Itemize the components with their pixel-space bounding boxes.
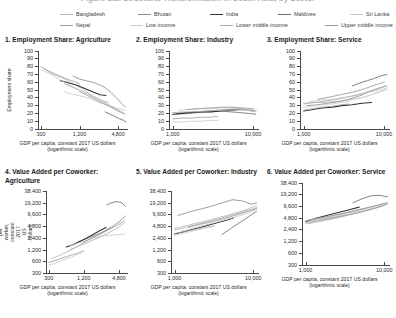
x-axis-ticks: 1,00010,000 <box>133 273 264 283</box>
legend-label: Bangladesh <box>76 11 105 17</box>
x-tick-label: 1,000 <box>168 275 182 281</box>
legend-item-low-income[interactable]: Low income <box>130 22 175 28</box>
plot-area: 3006001,2002,4004,8009,60019,20038,4001,… <box>133 187 264 299</box>
series-line-maldives <box>352 74 387 86</box>
panel-title: 5. Value Added per Coworker: Industry <box>136 168 264 185</box>
x-tick-label: 10,000 <box>376 267 393 273</box>
x-tick-label: 300 <box>36 131 45 137</box>
series-line-bhutan <box>178 200 257 216</box>
panel-value-added-service: 6. Value Added per Coworker: Service 300… <box>264 168 395 318</box>
legend-swatch-icon <box>220 25 233 26</box>
x-tick-mark <box>49 270 50 273</box>
x-axis-ticks: 1,00010,000 <box>133 129 264 139</box>
x-tick-mark <box>80 126 81 129</box>
x-axis-label: GDP per capita, constant 2017 US dollars… <box>133 140 264 152</box>
legend-label: Nepal <box>76 22 90 28</box>
x-tick-mark <box>84 270 85 273</box>
x-tick-label: 4,800 <box>112 275 126 281</box>
x-axis-label-sub: (logarithmic scale) <box>133 146 264 152</box>
x-axis-label-text: GDP per capita, constant 2017 US dollars <box>133 140 264 146</box>
legend-label: Low income <box>146 22 175 28</box>
x-axis-label-text: GDP per capita, constant 2017 US dollars <box>2 140 133 146</box>
series-line-bhutan <box>78 216 126 242</box>
series-line-sri-lanka <box>65 91 126 110</box>
legend-swatch-icon <box>130 25 143 26</box>
panel-title: 2. Employment Share: Industry <box>136 36 264 45</box>
x-axis-label-sub: (logarithmic scale) <box>2 290 133 296</box>
x-axis-label: GDP per capita, constant 2017 US dollars… <box>133 284 264 296</box>
plot-area: Value added per worker, constant 2017 US… <box>2 187 133 299</box>
panel-title: 1. Employment Share: Agriculture <box>5 36 133 45</box>
x-tick-mark <box>304 126 305 129</box>
x-tick-mark <box>253 270 254 273</box>
x-axis-label-sub: (logarithmic scale) <box>264 146 395 152</box>
plot-area: Employment share010203040506070809010030… <box>2 47 133 151</box>
legend-label: Lower middle income <box>236 22 288 28</box>
series-line-nepal <box>173 116 218 118</box>
x-tick-label: 10,000 <box>245 131 262 137</box>
x-tick-mark <box>173 126 174 129</box>
legend-row-2: NepalLow incomeLower middle incomeUpper … <box>60 22 396 33</box>
series-line-maldives <box>222 211 257 234</box>
x-axis-ticks: 3001,2004,800 <box>2 273 133 283</box>
legend-item-bangladesh[interactable]: Bangladesh <box>60 11 105 17</box>
legend-swatch-icon <box>60 25 73 26</box>
chart-legend: BangladeshBhutanIndiaMaldivesSri Lanka N… <box>60 11 396 35</box>
x-tick-mark <box>384 262 385 265</box>
legend-item-india[interactable]: India <box>210 11 238 17</box>
x-tick-mark <box>41 126 42 129</box>
x-axis-label: GDP per capita, constant 2017 US dollars… <box>2 284 133 296</box>
legend-row-1: BangladeshBhutanIndiaMaldivesSri Lanka <box>60 11 396 22</box>
x-axis-label-sub: (logarithmic scale) <box>264 282 395 288</box>
legend-label: India <box>226 11 238 17</box>
series-line-nepal <box>49 251 84 262</box>
x-tick-label: 1,000 <box>166 131 180 137</box>
x-tick-label: 1,000 <box>297 131 311 137</box>
legend-item-sri-lanka[interactable]: Sri Lanka <box>350 11 389 17</box>
plot-area: 01020304050607080901001,00010,000GDP per… <box>264 47 395 151</box>
series-line-upper-middle-income <box>319 202 387 217</box>
x-axis-ticks: 3001,2004,800 <box>2 129 133 139</box>
x-axis-ticks: 1,00010,000 <box>264 265 395 275</box>
x-axis-label: GDP per capita, constant 2017 US dollars… <box>264 276 395 288</box>
figure-structural-transformation: Figure 1.1. Structural Transformation in… <box>0 0 396 318</box>
x-tick-mark <box>119 270 120 273</box>
plot-area: 3006001,2002,4004,8009,60019,20038,4001,… <box>264 179 395 291</box>
series-line-bangladesh <box>175 205 257 228</box>
x-tick-mark <box>175 270 176 273</box>
legend-item-upper-middle-income[interactable]: Upper middle income <box>325 22 393 28</box>
x-axis-label-sub: (logarithmic scale) <box>2 146 133 152</box>
series-line-low-income <box>49 253 82 265</box>
x-axis-label: GDP per capita, constant 2017 US dollars… <box>2 140 133 152</box>
series-line-maldives <box>221 111 256 114</box>
panel-title: 6. Value Added per Coworker: Service <box>267 168 395 177</box>
series-line-india <box>304 102 372 111</box>
panel-employment-industry: 2. Employment Share: Industry 0102030405… <box>133 36 264 168</box>
legend-swatch-icon <box>60 14 73 15</box>
legend-label: Sri Lanka <box>366 11 389 17</box>
series-line-lower-middle-income <box>65 83 124 112</box>
panel-employment-agriculture: 1. Employment Share: Agriculture Employm… <box>2 36 133 168</box>
series-line-lower-middle-income <box>304 85 387 104</box>
x-axis-label: GDP per capita, constant 2017 US dollars… <box>264 140 395 152</box>
panel-title: 4. Value Added per Coworker: Agriculture <box>5 168 133 185</box>
x-tick-mark <box>384 126 385 129</box>
legend-item-maldives[interactable]: Maldives <box>278 11 316 17</box>
x-axis-ticks: 1,00010,000 <box>264 129 395 139</box>
x-tick-mark <box>253 126 254 129</box>
legend-item-bhutan[interactable]: Bhutan <box>138 11 171 17</box>
legend-item-lower-middle-income[interactable]: Lower middle income <box>220 22 288 28</box>
panel-value-added-industry: 5. Value Added per Coworker: Industry 30… <box>133 168 264 318</box>
series-line-low-income <box>173 120 219 122</box>
legend-swatch-icon <box>350 14 363 15</box>
x-tick-label: 1,200 <box>77 275 91 281</box>
legend-label: Upper middle income <box>341 22 393 28</box>
legend-label: Maldives <box>294 11 316 17</box>
legend-swatch-icon <box>210 14 223 15</box>
legend-item-nepal[interactable]: Nepal <box>60 22 90 28</box>
x-tick-mark <box>118 126 119 129</box>
x-tick-label: 10,000 <box>245 275 262 281</box>
legend-swatch-icon <box>325 25 338 26</box>
legend-label: Bhutan <box>154 11 171 17</box>
x-tick-label: 10,000 <box>376 131 393 137</box>
